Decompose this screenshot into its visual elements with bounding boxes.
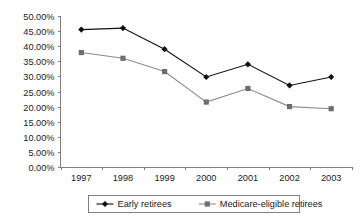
data-point-marker xyxy=(162,46,168,52)
data-point-marker xyxy=(328,74,334,80)
y-axis-tick-labels: 0.00%5.00%10.00%15.00%20.00%25.00%30.00%… xyxy=(23,12,54,173)
data-point-marker xyxy=(287,104,292,109)
y-tick-label: 50.00% xyxy=(23,12,54,22)
x-axis-tick-labels: 1997199819992000200120022003 xyxy=(71,173,341,183)
line-chart: 0.00%5.00%10.00%15.00%20.00%25.00%30.00%… xyxy=(0,0,362,224)
legend-label: Medicare-eligible retirees xyxy=(220,199,323,209)
x-tick-label-2001: 2001 xyxy=(238,173,258,183)
data-point-marker xyxy=(79,50,84,55)
series-markers xyxy=(78,25,334,111)
x-tick-label-1999: 1999 xyxy=(154,173,174,183)
data-point-marker xyxy=(245,61,251,67)
data-point-marker xyxy=(162,69,167,74)
data-point-marker xyxy=(329,106,334,111)
y-tick-label: 5.00% xyxy=(28,148,54,158)
data-point-marker xyxy=(203,74,209,80)
y-tick-label: 0.00% xyxy=(28,163,54,173)
chart-legend: Early retireesMedicare-eligible retirees xyxy=(89,196,323,213)
y-tick-label: 35.00% xyxy=(23,57,54,67)
y-tick-label: 30.00% xyxy=(23,72,54,82)
legend-marker-swatch xyxy=(205,201,210,206)
data-point-marker xyxy=(245,86,250,91)
x-tick-label-2003: 2003 xyxy=(321,173,341,183)
y-tick-label: 10.00% xyxy=(23,133,54,143)
x-tick-label-1998: 1998 xyxy=(113,173,133,183)
y-tick-label: 25.00% xyxy=(23,88,54,98)
x-tick-label-2000: 2000 xyxy=(196,173,216,183)
data-point-marker xyxy=(78,26,84,32)
data-point-marker xyxy=(204,99,209,104)
data-point-marker xyxy=(120,25,126,31)
chart-canvas: 0.00%5.00%10.00%15.00%20.00%25.00%30.00%… xyxy=(0,0,362,224)
x-tick-label-1997: 1997 xyxy=(71,173,91,183)
legend-label: Early retirees xyxy=(118,199,173,209)
data-point-marker xyxy=(120,56,125,61)
y-tick-label: 40.00% xyxy=(23,42,54,52)
data-point-marker xyxy=(286,82,292,88)
series-lines xyxy=(81,28,331,109)
y-tick-label: 20.00% xyxy=(23,103,54,113)
y-tick-label: 15.00% xyxy=(23,118,54,128)
x-tick-label-2002: 2002 xyxy=(279,173,299,183)
y-tick-label: 45.00% xyxy=(23,27,54,37)
